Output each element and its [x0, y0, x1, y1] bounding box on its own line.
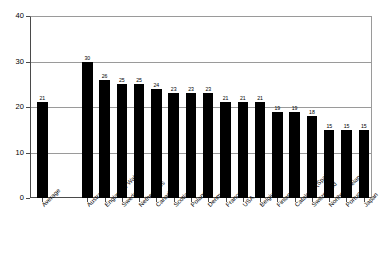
bar-value-label: 23	[199, 86, 217, 92]
bar-value-label: 25	[130, 77, 148, 83]
bar-value-label: 18	[303, 109, 321, 115]
bar[interactable]	[168, 93, 179, 198]
bar-value-label: 25	[113, 77, 131, 83]
bar[interactable]	[220, 102, 231, 198]
bar[interactable]	[37, 102, 48, 198]
bar-value-label: 19	[268, 105, 286, 111]
bar[interactable]	[99, 80, 110, 198]
bar[interactable]	[307, 116, 318, 198]
bar[interactable]	[203, 93, 214, 198]
bar-value-label: 30	[78, 55, 96, 61]
bar-value-label: 21	[217, 95, 235, 101]
bar[interactable]	[272, 112, 283, 198]
bars-layer: 213026252524232323212121191918151515	[0, 0, 389, 279]
bar[interactable]	[289, 112, 300, 198]
bar-value-label: 23	[182, 86, 200, 92]
bar-value-label: 21	[33, 95, 51, 101]
bar[interactable]	[324, 130, 335, 198]
bar-value-label: 19	[286, 105, 304, 111]
bar-value-label: 15	[355, 123, 373, 129]
bar[interactable]	[341, 130, 352, 198]
bar[interactable]	[186, 93, 197, 198]
bar[interactable]	[238, 102, 249, 198]
bar-value-label: 23	[165, 86, 183, 92]
bar-value-label: 24	[147, 82, 165, 88]
bar[interactable]	[134, 84, 145, 198]
bar-value-label: 26	[96, 73, 114, 79]
bar-value-label: 21	[234, 95, 252, 101]
bar[interactable]	[117, 84, 128, 198]
bar[interactable]	[255, 102, 266, 198]
bar-value-label: 15	[320, 123, 338, 129]
bar-chart: 010203040 AverageAustraliaEngland & Wale…	[0, 0, 389, 279]
bar-value-label: 15	[337, 123, 355, 129]
bar[interactable]	[151, 89, 162, 198]
bar-value-label: 21	[251, 95, 269, 101]
bar[interactable]	[82, 62, 93, 199]
bar[interactable]	[359, 130, 370, 198]
